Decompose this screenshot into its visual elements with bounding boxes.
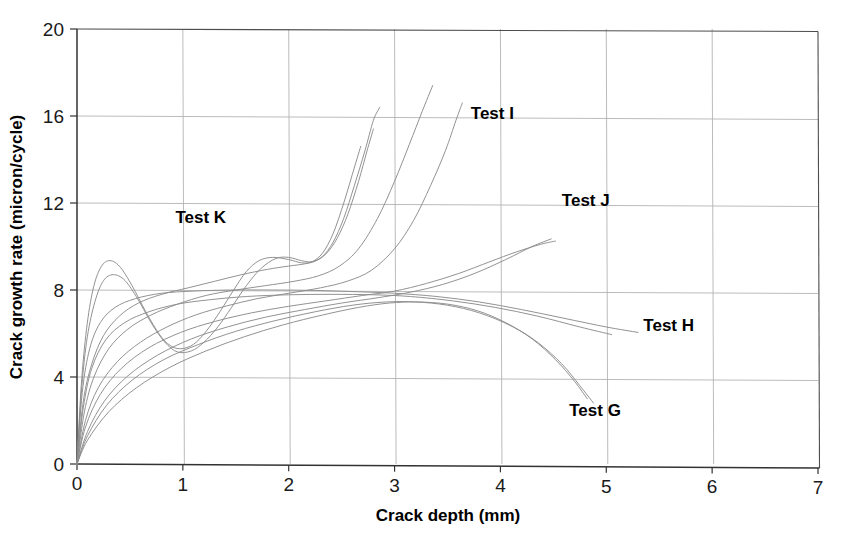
x-axis-title: Crack depth (mm) bbox=[376, 506, 521, 525]
x-tick-label: 1 bbox=[178, 474, 189, 495]
x-tick-label: 5 bbox=[601, 476, 612, 497]
x-tick-label: 7 bbox=[813, 477, 824, 498]
y-tick-label: 12 bbox=[43, 193, 64, 214]
series-label: Test G bbox=[569, 401, 621, 420]
x-tick-label: 4 bbox=[495, 475, 506, 496]
y-tick-label: 0 bbox=[53, 454, 64, 475]
chart-background bbox=[0, 0, 847, 542]
y-tick-label: 16 bbox=[43, 106, 64, 127]
crack-growth-rate-line-chart: 01234567 048121620 Test KTest ITest JTes… bbox=[0, 0, 847, 542]
series-label: Test K bbox=[175, 208, 226, 227]
y-axis-title: Crack growth rate (micron/cycle) bbox=[7, 115, 26, 380]
y-tick-label: 4 bbox=[53, 367, 64, 388]
chart-figure: 01234567 048121620 Test KTest ITest JTes… bbox=[0, 0, 847, 542]
y-tick-label: 8 bbox=[53, 280, 64, 301]
series-label: Test J bbox=[562, 191, 610, 210]
x-tick-label: 6 bbox=[707, 476, 718, 497]
series-label: Test I bbox=[471, 104, 514, 123]
series-label: Test H bbox=[643, 316, 694, 335]
x-tick-label: 2 bbox=[283, 474, 294, 495]
x-tick-label: 3 bbox=[389, 475, 400, 496]
x-tick-label: 0 bbox=[72, 473, 83, 494]
y-tick-label: 20 bbox=[43, 19, 64, 40]
